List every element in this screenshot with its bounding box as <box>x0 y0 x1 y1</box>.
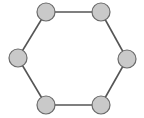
graph-node <box>118 50 136 68</box>
graph-node <box>92 3 110 21</box>
hexagon-cycle-graph <box>0 0 144 118</box>
graph-node <box>92 96 110 114</box>
graph-nodes <box>9 3 136 114</box>
graph-node <box>37 96 55 114</box>
graph-node <box>9 49 27 67</box>
graph-edges <box>18 12 127 105</box>
graph-node <box>37 3 55 21</box>
